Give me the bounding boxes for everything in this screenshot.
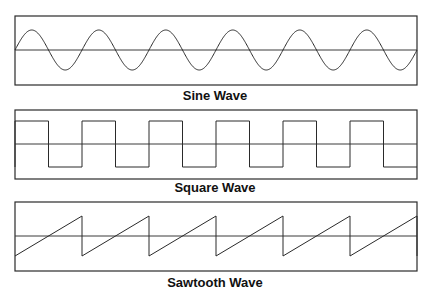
- sine-wave-label: Sine Wave: [0, 89, 430, 103]
- square-wave-label: Square Wave: [0, 181, 430, 195]
- sine-panel: [15, 16, 417, 85]
- sawtooth-panel: [15, 202, 417, 271]
- waveform-diagram: [0, 0, 430, 298]
- square-panel: [15, 110, 417, 179]
- sawtooth-wave-label: Sawtooth Wave: [0, 276, 430, 290]
